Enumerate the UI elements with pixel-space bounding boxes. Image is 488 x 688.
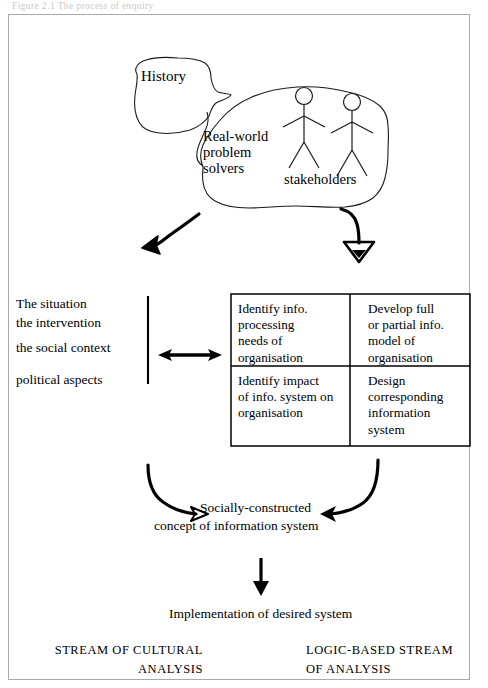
curved-arrow-left-icon xyxy=(320,460,378,522)
history-label: History xyxy=(141,68,186,85)
left-item-intervention: the intervention xyxy=(16,315,101,331)
concept-line-1: Socially-constructed xyxy=(200,500,311,516)
concept-line-2: concept of information system xyxy=(154,518,319,534)
curved-arrow-right-icon xyxy=(148,465,208,521)
left-item-situation: The situation xyxy=(16,296,87,312)
matrix-cell-bottom-right: Design corresponding information system xyxy=(368,373,443,438)
real-world-problem-solvers-label: Real-world problem solvers xyxy=(203,128,268,177)
figure-page: Figure 2.1 The process of enquiry xyxy=(0,0,488,688)
matrix-cell-top-left: Identify info. processing needs of organ… xyxy=(238,301,308,366)
stream-logic-based-label: LOGIC-BASED STREAM OF ANALYSIS xyxy=(306,641,453,680)
left-item-political-aspects: political aspects xyxy=(16,372,103,388)
matrix-cell-bottom-left: Identify impact of info. system on organ… xyxy=(238,373,333,422)
left-item-social-context: the social context xyxy=(16,340,110,356)
curved-arrow-down-icon xyxy=(341,209,374,262)
implementation-label: Implementation of desired system xyxy=(169,606,352,622)
matrix-cell-top-right: Develop full or partial info. model of o… xyxy=(368,301,444,366)
stick-figure-icon xyxy=(283,88,373,177)
curved-arrow-down-left-icon xyxy=(142,214,199,254)
arrow-down-icon xyxy=(253,558,269,596)
stakeholders-label: stakeholders xyxy=(284,171,356,188)
stream-cultural-analysis-label: STREAM OF CULTURAL ANALYSIS xyxy=(33,641,203,680)
double-headed-arrow-icon xyxy=(158,349,222,361)
